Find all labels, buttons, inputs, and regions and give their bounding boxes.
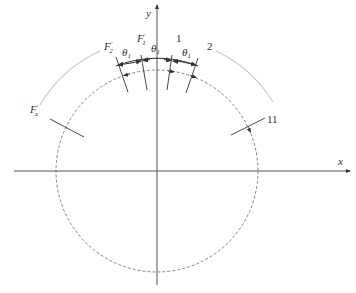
- leader-line-11: [231, 118, 265, 135]
- svg-text:θ1: θ1: [151, 42, 160, 56]
- label-fz-prime: F′z: [29, 103, 39, 118]
- leader-line-fz: [50, 119, 84, 137]
- dashed-arrow-left: [124, 74, 130, 76]
- y-axis-label: y: [145, 7, 151, 19]
- x-axis-label: x: [337, 155, 343, 167]
- theta-arrow-mid-l: [143, 60, 150, 61]
- outer-grey-arc-right: [216, 51, 273, 102]
- theta-label-left: θ1: [122, 46, 131, 60]
- theta-arrow-mid-r: [164, 60, 171, 61]
- dashed-arrow-11: [248, 127, 251, 132]
- diagram-canvas: y x θ1 θ1 θ1 F′1 F′2 F′z 1 2 11: [0, 0, 356, 293]
- svg-text:F′1: F′1: [136, 32, 146, 47]
- svg-text:θ1: θ1: [122, 46, 131, 60]
- label-1: 1: [176, 32, 182, 44]
- label-11: 11: [267, 113, 278, 125]
- label-f2-prime: F′2: [103, 40, 113, 55]
- svg-text:F′z: F′z: [29, 103, 39, 118]
- svg-text:F′2: F′2: [103, 40, 113, 55]
- outer-grey-arc-left: [40, 51, 100, 105]
- label-2: 2: [207, 40, 213, 52]
- theta-label-right: θ1: [182, 46, 191, 60]
- label-f1-prime: F′1: [136, 32, 146, 47]
- theta-arrow-right-b: [183, 62, 196, 65]
- dashed-arrow-right: [190, 76, 196, 78]
- theta-label-mid: θ1: [151, 42, 160, 56]
- svg-text:θ1: θ1: [182, 46, 191, 60]
